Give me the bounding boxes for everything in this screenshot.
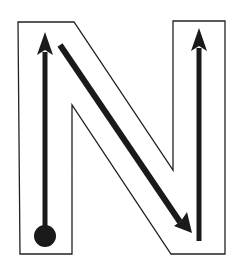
- start-dot-icon: [34, 225, 56, 247]
- letter-n-diagram: Letter N stroke order guide: [0, 0, 241, 268]
- diagram-canvas: [0, 0, 241, 268]
